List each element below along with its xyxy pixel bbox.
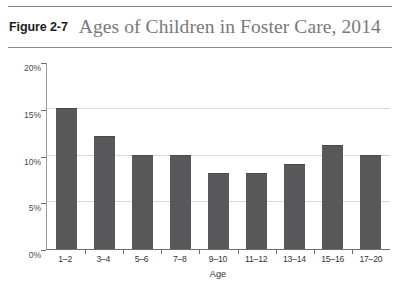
x-axis-tick-label: 17–20 <box>352 254 390 268</box>
figure-number-label: Figure 2-7 <box>8 20 68 34</box>
bar-slot <box>123 63 161 249</box>
x-axis-tick-label: 7–8 <box>161 254 199 268</box>
bar-slot <box>199 63 237 249</box>
bar <box>284 164 305 249</box>
bar-slot <box>238 63 276 249</box>
x-axis-tick-label: 13–14 <box>275 254 313 268</box>
x-axis-tick-label: 3–4 <box>84 254 122 268</box>
page-title: Ages of Children in Foster Care, 2014 <box>79 17 381 37</box>
plot-area <box>46 63 390 250</box>
bar-slot <box>161 63 199 249</box>
x-axis-tick-label: 11–12 <box>237 254 275 268</box>
bar-series <box>47 63 390 249</box>
bar <box>360 155 381 250</box>
x-axis-title: Age <box>46 269 390 279</box>
x-axis-labels: 1–23–45–67–89–1011–1213–1415–1617–20 <box>46 254 390 268</box>
bar <box>170 155 191 250</box>
y-axis-tick <box>41 250 46 251</box>
x-axis-tick-label: 15–16 <box>314 254 352 268</box>
bar-slot <box>85 63 123 249</box>
x-axis-tick-label: 1–2 <box>46 254 84 268</box>
y-axis-labels: 0%5%10%15%20% <box>8 63 41 250</box>
x-axis-tick-label: 9–10 <box>199 254 237 268</box>
bar <box>132 155 153 250</box>
bar-slot <box>47 63 85 249</box>
bar <box>56 108 77 249</box>
bar-chart: 0%5%10%15%20% 1–23–45–67–89–1011–1213–14… <box>8 54 392 282</box>
x-axis-tick-label: 5–6 <box>122 254 160 268</box>
bar <box>322 145 343 249</box>
figure-card: Figure 2-7 Ages of Children in Foster Ca… <box>0 0 398 288</box>
figure-title-block: Figure 2-7 Ages of Children in Foster Ca… <box>8 6 392 48</box>
bar-slot <box>276 63 314 249</box>
bar-slot <box>314 63 352 249</box>
bar <box>246 173 267 249</box>
bar-slot <box>352 63 390 249</box>
bar <box>94 136 115 249</box>
bar <box>208 173 229 249</box>
